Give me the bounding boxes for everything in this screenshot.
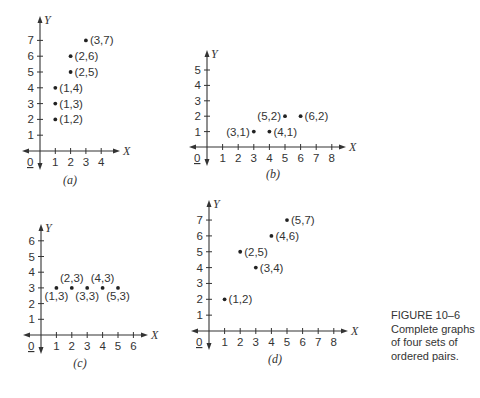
x-tick-label: 4 — [98, 156, 105, 168]
panel-d: XY0123456781234567(1,2)(2,5)(3,4)(4,6)(5… — [191, 197, 359, 366]
point-label: (2,6) — [75, 50, 99, 62]
panel-label: (a) — [63, 173, 77, 187]
data-point — [252, 130, 256, 134]
x-tick-label: 5 — [282, 152, 288, 164]
data-point — [53, 86, 57, 90]
y-tick-label: 4 — [28, 82, 35, 94]
x-axis-label: X — [348, 140, 357, 154]
data-point — [270, 234, 274, 238]
x-tick-label: 8 — [331, 336, 337, 348]
data-point — [238, 250, 242, 254]
x-axis-label: X — [150, 328, 159, 342]
y-tick-label: 1 — [28, 129, 34, 141]
x-tick-label: 3 — [83, 156, 89, 168]
point-label: (5,2) — [257, 110, 281, 122]
origin-label: 0 — [27, 156, 33, 168]
x-axis-label: X — [122, 144, 131, 158]
origin-label: 0 — [196, 336, 202, 348]
y-tick-label: 2 — [197, 293, 203, 305]
arrow-up-icon — [205, 50, 210, 57]
y-axis-label: Y — [45, 221, 53, 235]
x-tick-label: 5 — [284, 336, 290, 348]
point-label: (5,7) — [291, 214, 315, 226]
y-tick-label: 4 — [29, 266, 36, 278]
point-label: (3,1) — [226, 126, 250, 138]
point-label: (1,2) — [229, 293, 253, 305]
y-axis-label: Y — [211, 47, 219, 61]
x-tick-label: 6 — [297, 152, 303, 164]
data-point — [69, 70, 73, 74]
y-tick-label: 7 — [197, 214, 203, 226]
x-tick-label: 5 — [115, 340, 121, 352]
y-tick-label: 5 — [197, 246, 203, 258]
panel-a: XY012341234567(1,2)(1,3)(1,4)(2,5)(2,6)(… — [22, 13, 131, 187]
panel-c: XY0123456123456(1,3)(2,3)(3,3)(4,3)(5,3)… — [23, 221, 159, 370]
arrow-left-icon — [22, 149, 29, 154]
origin-label: 0 — [28, 340, 34, 352]
arrow-left-icon — [189, 145, 196, 150]
point-label: (5,3) — [106, 290, 130, 302]
arrow-down-icon — [39, 347, 44, 354]
y-tick-label: 7 — [28, 34, 34, 46]
x-tick-label: 1 — [52, 156, 58, 168]
arrow-up-icon — [207, 200, 212, 207]
figure-label: FIGURE 10–6 — [391, 309, 480, 323]
caption-line-2: of four sets of — [391, 336, 480, 350]
x-tick-label: 4 — [266, 152, 273, 164]
arrow-left-icon — [23, 333, 30, 338]
y-tick-label: 5 — [28, 66, 34, 78]
figure-caption: FIGURE 10–6 Complete graphs of four sets… — [391, 309, 480, 363]
data-point — [70, 286, 74, 290]
arrow-down-icon — [38, 163, 43, 170]
data-point — [53, 118, 57, 122]
arrow-right-icon — [341, 329, 348, 334]
origin-label: 0 — [194, 152, 200, 164]
x-tick-label: 4 — [99, 340, 106, 352]
y-tick-label: 2 — [195, 110, 201, 122]
y-tick-label: 3 — [28, 98, 34, 110]
point-label: (3,3) — [75, 290, 99, 302]
point-label: (4,6) — [275, 230, 299, 242]
point-label: (1,3) — [59, 98, 83, 110]
caption-line-1: Complete graphs — [391, 323, 480, 337]
y-tick-label: 1 — [29, 313, 35, 325]
data-point — [283, 114, 287, 118]
x-tick-label: 6 — [130, 340, 136, 352]
y-tick-label: 4 — [195, 79, 202, 91]
x-tick-label: 3 — [84, 340, 90, 352]
point-label: (2,5) — [244, 246, 268, 258]
arrow-right-icon — [113, 149, 120, 154]
point-label: (1,3) — [45, 290, 69, 302]
x-tick-label: 7 — [313, 152, 319, 164]
panel-label: (b) — [266, 167, 280, 181]
y-tick-label: 1 — [195, 126, 201, 138]
y-tick-label: 3 — [197, 277, 203, 289]
y-tick-label: 2 — [28, 113, 34, 125]
panel-b: XY01234567812345(3,1)(4,1)(5,2)(6,2)(b) — [189, 47, 357, 181]
arrow-up-icon — [39, 224, 44, 231]
point-label: (4,3) — [91, 272, 115, 284]
panel-label: (d) — [268, 352, 282, 366]
arrow-down-icon — [205, 159, 210, 166]
point-label: (2,3) — [60, 272, 84, 284]
x-tick-label: 2 — [235, 152, 241, 164]
point-label: (1,4) — [59, 82, 83, 94]
x-tick-label: 1 — [53, 340, 59, 352]
data-point — [299, 114, 303, 118]
point-label: (2,5) — [75, 66, 99, 78]
data-point — [268, 130, 272, 134]
data-point — [101, 286, 105, 290]
x-tick-label: 4 — [268, 336, 275, 348]
y-tick-label: 6 — [29, 235, 35, 247]
data-point — [223, 297, 227, 301]
data-point — [84, 39, 88, 43]
arrow-down-icon — [207, 343, 212, 350]
y-tick-label: 6 — [28, 50, 34, 62]
caption-line-3: ordered pairs. — [391, 350, 480, 364]
panel-label: (c) — [73, 356, 86, 370]
point-label: (3,7) — [90, 34, 114, 46]
y-tick-label: 5 — [195, 64, 201, 76]
data-point — [285, 218, 289, 222]
point-label: (4,1) — [273, 126, 297, 138]
y-tick-label: 5 — [29, 251, 35, 263]
